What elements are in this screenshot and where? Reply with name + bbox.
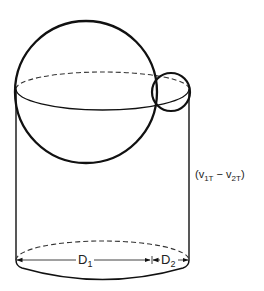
d2-label: D2 bbox=[161, 252, 175, 269]
collision-cylinder-diagram: D1 D2 (v1T − v2T) bbox=[0, 0, 264, 291]
large-sphere bbox=[15, 21, 157, 163]
d1-label: D1 bbox=[78, 252, 92, 269]
top-ellipse-front bbox=[16, 89, 189, 110]
velocity-difference-label: (v1T − v2T) bbox=[195, 168, 245, 183]
